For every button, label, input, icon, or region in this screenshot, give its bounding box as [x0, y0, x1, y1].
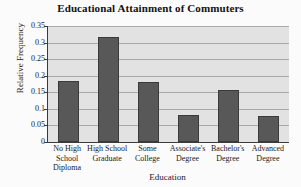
bar: [58, 81, 79, 142]
gridline: [48, 59, 289, 60]
y-axis-tick-label: 0.2: [5, 72, 45, 80]
gridline: [48, 92, 289, 93]
y-axis-tick-label: 0.15: [5, 88, 45, 96]
x-axis-line: [47, 142, 289, 143]
x-axis-tick-label-line: Diploma: [43, 163, 91, 173]
y-axis-tick-mark: [44, 43, 48, 44]
y-axis-tick-mark: [44, 92, 48, 93]
bar: [178, 115, 199, 142]
gridline: [48, 76, 289, 77]
bar: [98, 37, 119, 142]
bar-chart: Educational Attainment of Commuters Rela…: [0, 0, 301, 187]
gridline: [48, 125, 289, 126]
y-axis-tick-label: 0.35: [5, 22, 45, 30]
y-axis-tick-mark: [44, 125, 48, 126]
x-axis-tick-label: AdvancedDegree: [244, 144, 292, 163]
y-axis-tick-label: 0.25: [5, 55, 45, 63]
y-axis-tick-mark: [44, 109, 48, 110]
y-axis-tick-mark: [44, 142, 48, 143]
y-axis-tick-label: 0.1: [5, 105, 45, 113]
x-axis-title: Education: [47, 172, 288, 182]
y-axis-tick-mark: [44, 59, 48, 60]
gridline: [48, 109, 289, 110]
y-axis-tick-label: 0.3: [5, 39, 45, 47]
plot-area: [47, 26, 289, 142]
y-axis-tick-label: 0.05: [5, 121, 45, 129]
bar: [258, 116, 279, 142]
gridline: [48, 26, 289, 27]
bar: [218, 90, 239, 142]
gridline: [48, 43, 289, 44]
y-axis-tick-mark: [44, 26, 48, 27]
x-axis-tick-label-line: Degree: [244, 154, 292, 164]
chart-title: Educational Attainment of Commuters: [0, 2, 301, 14]
y-axis-tick-mark: [44, 76, 48, 77]
y-axis-tick-label: 0: [5, 138, 45, 146]
bar: [138, 82, 159, 142]
x-axis-tick-label-line: Advanced: [244, 144, 292, 154]
